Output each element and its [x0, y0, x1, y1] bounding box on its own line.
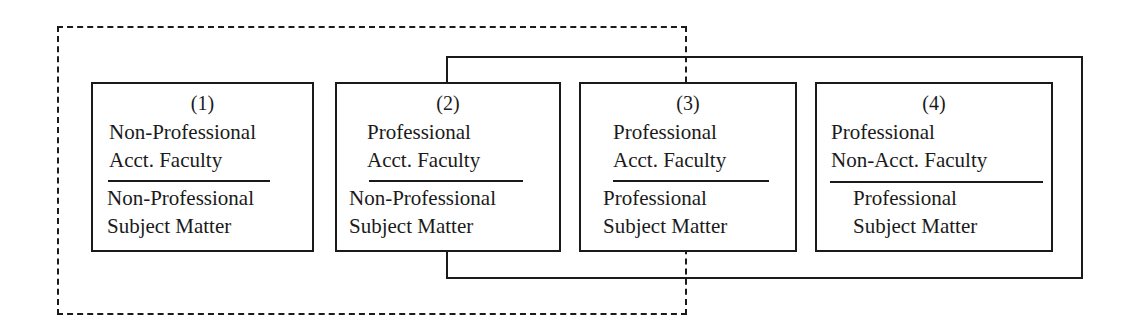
faculty-line-1: Professional: [831, 122, 935, 143]
faculty-line-1: Professional: [367, 122, 471, 143]
box-number: (4): [817, 92, 1051, 115]
box-3: (3) Professional Acct. Faculty Professio…: [579, 82, 797, 252]
fraction-rule: [108, 180, 270, 182]
box-1: (1) Non-Professional Acct. Faculty Non-P…: [91, 82, 314, 252]
faculty-line-1: Professional: [613, 122, 717, 143]
subject-line-1: Professional: [603, 188, 707, 209]
subject-line-2: Subject Matter: [603, 216, 727, 237]
faculty-line-2: Acct. Faculty: [613, 150, 726, 171]
box-2: (2) Professional Acct. Faculty Non-Profe…: [335, 82, 561, 252]
faculty-line-2: Acct. Faculty: [109, 150, 222, 171]
faculty-line-2: Acct. Faculty: [367, 150, 480, 171]
subject-line-2: Subject Matter: [107, 216, 231, 237]
subject-line-1: Non-Professional: [107, 188, 254, 209]
subject-line-1: Non-Professional: [349, 188, 496, 209]
faculty-line-1: Non-Professional: [109, 122, 256, 143]
fraction-rule: [369, 180, 523, 182]
fraction-rule: [613, 180, 769, 182]
subject-line-1: Professional: [853, 188, 957, 209]
fraction-rule: [830, 181, 1043, 183]
box-number: (3): [581, 92, 795, 115]
box-number: (2): [337, 92, 559, 115]
faculty-line-2: Non-Acct. Faculty: [831, 150, 987, 171]
subject-line-2: Subject Matter: [349, 216, 473, 237]
subject-line-2: Subject Matter: [853, 216, 977, 237]
box-number: (1): [93, 92, 312, 115]
box-4: (4) Professional Non-Acct. Faculty Profe…: [815, 82, 1053, 252]
